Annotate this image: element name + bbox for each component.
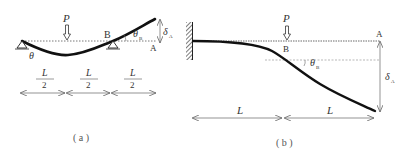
point-b-label: B: [283, 44, 289, 54]
delta-a-label: δ: [385, 71, 390, 82]
svg-text:2: 2: [42, 80, 47, 90]
load-arrow-icon: [284, 26, 291, 40]
angle-arc: [304, 60, 305, 66]
load-label: P: [62, 12, 70, 24]
svg-text:2: 2: [130, 80, 135, 90]
delta-a-subscript: A: [391, 79, 395, 84]
span-label-1: L: [236, 104, 243, 116]
delta-a-subscript: A: [169, 34, 173, 39]
theta-b-label: θ: [133, 28, 138, 39]
point-a-label: A: [150, 43, 157, 53]
figure-b: P B A θ B δ A L L ( b ): [186, 12, 395, 149]
span-label-2: L: [326, 104, 333, 116]
figure-a: P B A θ θ B δ A L 2 L 2 L 2: [15, 12, 173, 144]
load-label: P: [282, 12, 290, 24]
span-label-3: L 2: [124, 67, 142, 90]
caption-a: ( a ): [73, 132, 89, 144]
theta-b-label: θ: [310, 57, 315, 68]
theta-b-subscript: B: [139, 36, 143, 41]
span-label-2: L 2: [80, 67, 98, 90]
point-a-label: A: [376, 29, 383, 39]
load-arrow-icon: [64, 25, 71, 40]
beam-deflection-diagram: P B A θ θ B δ A L 2 L 2 L 2: [0, 0, 406, 158]
theta-label: θ: [29, 50, 34, 61]
span-label-1: L 2: [36, 67, 54, 90]
svg-text:L: L: [41, 67, 48, 78]
delta-a-label: δ: [163, 26, 168, 37]
fixed-support-icon: [186, 22, 193, 60]
svg-text:L: L: [85, 67, 92, 78]
svg-text:2: 2: [86, 80, 91, 90]
point-b-label: B: [104, 29, 111, 40]
caption-b: ( b ): [276, 137, 293, 149]
svg-text:L: L: [129, 67, 136, 78]
theta-b-subscript: B: [316, 65, 320, 70]
